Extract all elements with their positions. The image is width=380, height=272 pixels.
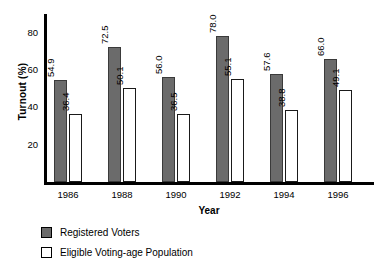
- bar-value-label: 78.0: [208, 15, 218, 34]
- legend-swatch-eligible: [41, 247, 52, 258]
- bar-value-label: 49.1: [331, 69, 341, 88]
- bar-group: 66.049.1: [324, 14, 354, 182]
- bar-value-label: 38.8: [277, 88, 287, 107]
- x-tick-label: 1986: [46, 189, 90, 200]
- turnout-bar-chart: Turnout (%) 20406080 54.936.472.550.156.…: [0, 0, 380, 272]
- x-tick-label: 1994: [262, 189, 306, 200]
- bar-value-label: 55.1: [223, 58, 233, 77]
- bar-group: 72.550.1: [108, 14, 138, 182]
- x-tick-label: 1988: [100, 189, 144, 200]
- bar-group: 57.638.8: [270, 14, 300, 182]
- x-axis-title: Year: [44, 205, 374, 216]
- bar-value-label: 56.0: [154, 56, 164, 75]
- legend-item: Eligible Voting-age Population: [41, 242, 193, 262]
- legend-swatch-registered: [41, 227, 52, 238]
- x-axis-line: [44, 182, 374, 185]
- legend-label: Registered Voters: [60, 227, 140, 238]
- bar-value-label: 57.6: [262, 53, 272, 72]
- x-tick-label: 1996: [316, 189, 360, 200]
- bar-eligible-population: 36.5: [177, 114, 190, 182]
- legend-item: Registered Voters: [41, 222, 193, 242]
- bar-value-label: 72.5: [100, 25, 110, 44]
- bar-eligible-population: 50.1: [123, 88, 136, 182]
- bar-value-label: 36.4: [61, 93, 71, 112]
- bar-value-label: 50.1: [115, 67, 125, 86]
- legend-label: Eligible Voting-age Population: [60, 247, 193, 258]
- bar-value-label: 54.9: [46, 58, 56, 77]
- y-axis-title: Turnout (%): [17, 42, 28, 142]
- x-tick-label: 1990: [154, 189, 198, 200]
- bar-eligible-population: 55.1: [231, 79, 244, 182]
- bar-eligible-population: 38.8: [285, 110, 298, 182]
- bar-group: 78.055.1: [216, 14, 246, 182]
- bar-value-label: 66.0: [316, 37, 326, 56]
- y-tick-label: 60: [16, 65, 38, 75]
- y-tick-label: 80: [16, 28, 38, 38]
- y-tick-label: 20: [16, 140, 38, 150]
- plot-area: 54.936.472.550.156.036.578.055.157.638.8…: [46, 14, 374, 182]
- bar-eligible-population: 36.4: [69, 114, 82, 182]
- x-tick-label: 1992: [208, 189, 252, 200]
- bar-group: 56.036.5: [162, 14, 192, 182]
- bar-value-label: 36.5: [169, 92, 179, 111]
- chart-legend: Registered VotersEligible Voting-age Pop…: [41, 222, 193, 262]
- bar-eligible-population: 49.1: [339, 90, 352, 182]
- y-tick-label: 40: [16, 102, 38, 112]
- bar-group: 54.936.4: [54, 14, 84, 182]
